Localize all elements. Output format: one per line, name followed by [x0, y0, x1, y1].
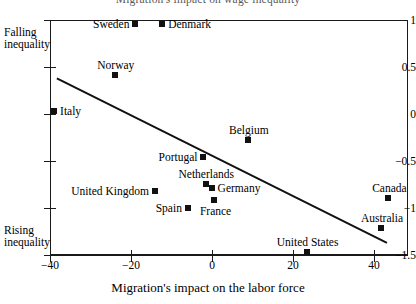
data-point-marker: [152, 188, 158, 194]
annotation-rising-line2: inequality: [4, 237, 50, 249]
data-point-label: United Kingdom: [71, 185, 149, 197]
annotation-rising-line1: Rising: [4, 225, 50, 237]
data-point-marker: [211, 197, 217, 203]
x-tick-label: 20: [268, 259, 318, 271]
annotation-falling-inequality: Falling inequality: [4, 27, 50, 50]
data-point-label: Netherlands: [179, 168, 235, 180]
data-point-label: France: [200, 205, 231, 217]
data-point-label: Sweden: [93, 18, 129, 30]
x-tick-label: −20: [106, 259, 156, 271]
data-point-marker: [159, 21, 165, 27]
data-point-label: Germany: [218, 182, 261, 194]
y-tick-label: 0: [374, 108, 416, 120]
data-point-marker: [304, 249, 310, 255]
data-point-label: United States: [277, 236, 339, 248]
data-point-marker: [385, 195, 391, 201]
data-point-marker: [51, 108, 57, 114]
data-point-label: Norway: [97, 59, 134, 71]
annotation-falling-line2: inequality: [4, 39, 50, 51]
data-point-marker: [112, 72, 118, 78]
data-point-marker: [132, 21, 138, 27]
data-point-marker: [200, 154, 206, 160]
y-tick-label: −0.5: [374, 155, 416, 167]
data-point-label: Canada: [372, 182, 406, 194]
x-tick-label: 0: [187, 259, 237, 271]
y-tick-label: 1: [374, 14, 416, 26]
data-point-marker: [245, 137, 251, 143]
data-point-marker: [185, 205, 191, 211]
data-point-marker: [209, 185, 215, 191]
annotation-rising-inequality: Rising inequality: [4, 225, 50, 248]
annotation-falling-line1: Falling: [4, 27, 50, 39]
data-point-label: Spain: [156, 202, 182, 214]
x-tick-label: −40: [25, 259, 75, 271]
y-tick-label: 0.5: [374, 61, 416, 73]
data-point-label: Belgium: [229, 124, 269, 136]
data-point-label: Portugal: [158, 151, 197, 163]
data-point-label: Australia: [361, 212, 403, 224]
data-point-label: Denmark: [168, 18, 211, 30]
x-tick-label: 40: [349, 259, 399, 271]
data-point-marker: [378, 225, 384, 231]
trend-line: [57, 78, 387, 243]
x-axis-title: Migration's impact on the labor force: [0, 280, 416, 296]
data-point-label: Italy: [60, 105, 81, 117]
chart-figure: Migration's impact on wage inequality 1 …: [0, 0, 416, 304]
